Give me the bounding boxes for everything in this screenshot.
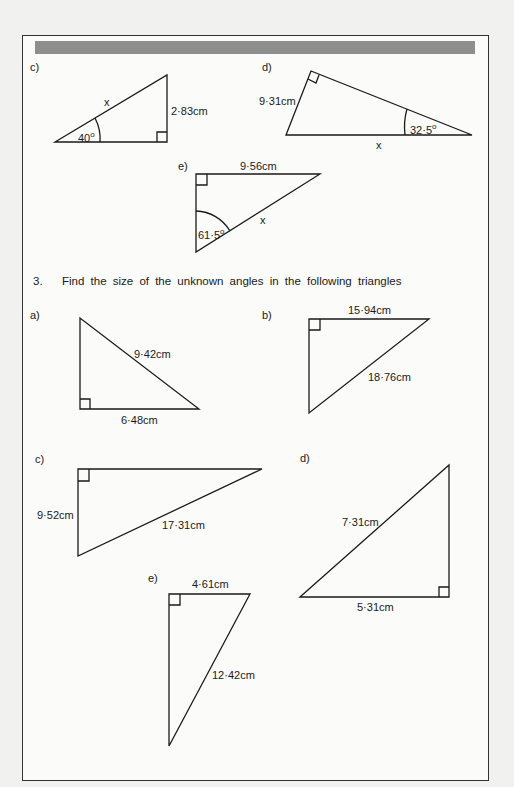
triangle-3c: [78, 469, 262, 556]
label-3d: d): [300, 452, 310, 464]
label-e: e): [178, 160, 188, 172]
triangle-d: [286, 71, 472, 135]
triangle-3a: [80, 318, 199, 409]
label-3c: c): [35, 453, 44, 465]
triangle-3d: [300, 465, 449, 597]
question-text: Find the size of the unknown angles in t…: [62, 275, 401, 288]
side-label: 12·42cm: [212, 669, 255, 681]
side-label: 9·56cm: [240, 160, 277, 172]
label-3b: b): [262, 309, 272, 321]
side-label: 6·48cm: [121, 414, 158, 426]
label-3a: a): [30, 309, 40, 321]
triangle-c: [55, 75, 167, 142]
triangle-3b: [309, 319, 429, 413]
angle-label: 61·5o: [198, 226, 224, 241]
side-label: 17·31cm: [162, 519, 205, 531]
side-label: 5·31cm: [357, 601, 394, 613]
side-label: 15·94cm: [348, 304, 391, 316]
triangle-figures: [0, 0, 514, 787]
angle-label: 40o: [78, 129, 95, 144]
question-number: 3.: [33, 275, 43, 288]
label-3e: e): [148, 572, 158, 584]
side-label: 18·76cm: [368, 371, 411, 383]
side-label: 9·52cm: [37, 509, 74, 521]
side-label: 2·83cm: [171, 105, 208, 117]
side-label: 9·42cm: [134, 348, 171, 360]
label-d: d): [262, 61, 272, 73]
side-label: x: [260, 214, 266, 226]
side-label: 4·61cm: [192, 578, 229, 590]
side-label: 9·31cm: [259, 95, 296, 107]
side-label: x: [104, 96, 110, 108]
side-label: x: [376, 139, 382, 151]
side-label: 7·31cm: [342, 516, 379, 528]
angle-label: 32·5o: [410, 121, 436, 136]
label-c: c): [30, 61, 39, 73]
